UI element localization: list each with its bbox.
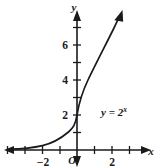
x-tick-label-neg2: −2 [37, 156, 50, 168]
x-axis-left-arrow-icon [4, 146, 14, 154]
equation-exponent: x [122, 105, 127, 114]
equation-base: y = 2 [99, 106, 124, 118]
x-axis-label: x [147, 145, 154, 157]
y-tick-label-2: 2 [62, 109, 68, 121]
exponential-function-graph: y x −2 2 2 4 6 O y = 2x [0, 0, 157, 168]
x-tick-label-2: 2 [109, 156, 115, 168]
y-tick-label-4: 4 [62, 74, 68, 86]
y-tick-label-6: 6 [62, 39, 68, 51]
graph-canvas: y x −2 2 2 4 6 O y = 2x [0, 0, 157, 168]
curve-arrow-icon [114, 10, 123, 22]
equation-annotation: y = 2x [99, 105, 127, 118]
origin-label: O [68, 155, 76, 166]
y-axis-label: y [70, 1, 77, 13]
